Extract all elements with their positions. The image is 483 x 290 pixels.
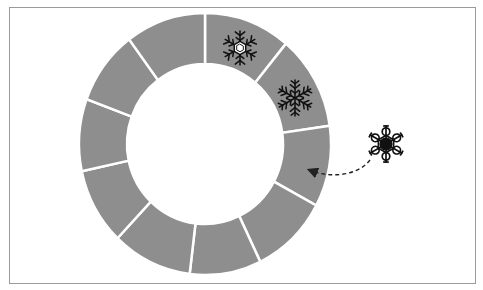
snowflake-incoming-lace-icon[interactable] — [368, 125, 405, 163]
ring-diagram — [0, 0, 483, 290]
segmented-ring — [79, 13, 331, 275]
